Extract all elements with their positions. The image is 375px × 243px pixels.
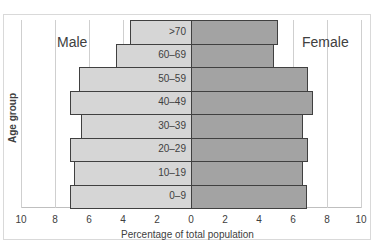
x-tick-label: 0	[181, 214, 201, 225]
age-group-label: 40–49	[146, 96, 186, 107]
female-bar	[191, 161, 303, 186]
x-tick-label: 6	[79, 214, 99, 225]
female-bar	[191, 67, 308, 92]
x-tick-label: 10	[11, 214, 31, 225]
female-bar	[191, 114, 303, 139]
age-group-label: 30–39	[146, 120, 186, 131]
female-bar	[191, 185, 307, 210]
y-axis-title: Age group	[7, 93, 18, 143]
female-bar	[191, 138, 308, 163]
x-tick-label: 10	[351, 214, 371, 225]
female-bar	[191, 91, 313, 116]
age-group-label: 50–59	[146, 73, 186, 84]
x-tick-label: 2	[215, 214, 235, 225]
age-group-label: 10–19	[146, 167, 186, 178]
female-bar	[191, 44, 274, 69]
age-group-label: 60–69	[146, 49, 186, 60]
age-group-label: 20–29	[146, 143, 186, 154]
x-tick-label: 8	[45, 214, 65, 225]
x-tick-label: 8	[317, 214, 337, 225]
female-series-label: Female	[302, 34, 349, 50]
age-group-label: 0–9	[146, 190, 186, 201]
x-tick-label: 4	[113, 214, 133, 225]
x-axis-title: Percentage of total population	[0, 229, 375, 240]
x-tick-label: 4	[249, 214, 269, 225]
x-tick-label: 6	[283, 214, 303, 225]
age-group-label: >70	[146, 26, 186, 37]
male-series-label: Male	[57, 34, 87, 50]
gridline	[361, 20, 362, 208]
gridline	[21, 20, 22, 208]
gridline	[55, 20, 56, 208]
female-bar	[191, 20, 278, 45]
x-tick-label: 2	[147, 214, 167, 225]
